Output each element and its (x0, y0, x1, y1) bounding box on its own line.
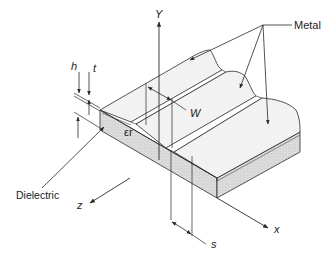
z-axis-label: z (76, 199, 83, 211)
h-label: h (71, 60, 77, 72)
x-axis-label: x (273, 223, 280, 235)
y-axis-label: Y (155, 8, 163, 20)
cpw-diagram: Y x z Metal Dielectric εr h t (0, 0, 329, 255)
w-label: W (190, 107, 202, 119)
metal-label: Metal (294, 19, 321, 31)
z-axis: z (76, 178, 130, 211)
dielectric-callout: Dielectric (16, 127, 104, 201)
s-label: s (211, 238, 217, 250)
permittivity-label: εr (124, 126, 133, 138)
thickness-dimensions: h t (71, 60, 100, 138)
x-axis: x (217, 198, 280, 235)
t-label: t (93, 62, 97, 74)
dielectric-label: Dielectric (16, 189, 59, 201)
